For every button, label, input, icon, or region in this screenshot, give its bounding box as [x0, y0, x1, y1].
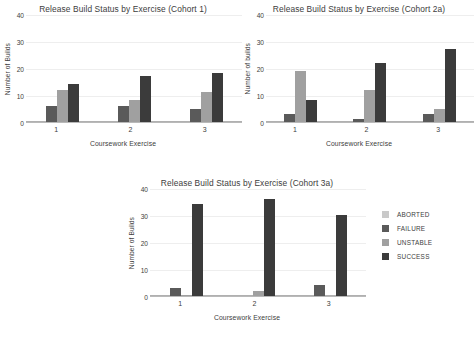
chart-legend: ABORTEDFAILUREUNSTABLESUCCESS [382, 207, 470, 263]
bar-success [306, 100, 317, 122]
bar-unstable [201, 92, 212, 122]
y-tick-label: 30 [141, 213, 148, 220]
multi-panel-bar-chart-figure: Release Build Status by Exercise (Cohort… [0, 0, 474, 345]
bar-group [170, 15, 242, 122]
y-tick-label: 0 [20, 120, 24, 127]
plot-area-wrapper: Number of builds 010203040 [244, 15, 474, 123]
x-tick-label: 1 [259, 123, 331, 133]
y-tick-label: 40 [257, 12, 264, 19]
legend-label: UNSTABLE [397, 239, 432, 246]
chart-title: Release Build Status by Exercise (Cohort… [128, 178, 366, 189]
bar-group [405, 15, 474, 122]
y-axis-ticks: 010203040 [11, 15, 26, 123]
legend-label: SUCCESS [397, 253, 430, 260]
y-tick-label: 30 [257, 39, 264, 46]
plot-area-wrapper: Number of Builds 010203040 [128, 189, 366, 297]
y-tick-label: 0 [144, 294, 148, 301]
bar-unstable [181, 295, 192, 296]
y-axis-label: Number of builds [244, 43, 251, 94]
bar-unstable [434, 109, 445, 123]
bar-failure [284, 114, 295, 122]
bar-failure [46, 106, 57, 122]
x-tick-label: 2 [93, 123, 167, 133]
legend-swatch-icon [382, 239, 389, 246]
x-axis-categories: 123 [143, 297, 366, 307]
y-tick-label: 10 [257, 93, 264, 100]
bar-unstable [129, 100, 140, 122]
x-tick-label: 3 [292, 297, 366, 307]
bar-unstable [253, 291, 264, 296]
bar-success [375, 63, 386, 122]
x-axis-label: Coursework Exercise [128, 314, 366, 321]
legend-swatch-icon [382, 253, 389, 260]
bar-failure [353, 119, 364, 122]
x-tick-label: 1 [143, 297, 217, 307]
chart-panel-cohort-2a: Release Build Status by Exercise (Cohort… [244, 4, 474, 174]
y-axis-ticks: 010203040 [251, 15, 266, 123]
x-tick-label: 3 [402, 123, 474, 133]
chart-title: Release Build Status by Exercise (Cohort… [4, 4, 242, 15]
bar-success [445, 49, 456, 122]
bar-success [140, 76, 151, 122]
plot-area [266, 15, 474, 123]
legend-item-aborted[interactable]: ABORTED [382, 207, 470, 221]
bar-unstable [57, 90, 68, 122]
x-tick-label: 2 [331, 123, 403, 133]
x-axis-categories: 123 [19, 123, 242, 133]
bar-group [26, 15, 98, 122]
legend-swatch-icon [382, 225, 389, 232]
bar-groups [26, 15, 242, 122]
y-tick-label: 20 [141, 240, 148, 247]
bar-failure [423, 114, 434, 122]
bar-unstable [295, 71, 306, 122]
bar-failure [170, 288, 181, 296]
y-axis-label: Number of Builds [128, 217, 135, 269]
legend-label: FAILURE [397, 225, 425, 232]
y-tick-label: 40 [17, 12, 24, 19]
bar-group [266, 15, 335, 122]
bar-success [212, 73, 223, 122]
bar-groups [150, 189, 366, 296]
x-axis-label: Coursework Exercise [4, 140, 242, 147]
y-tick-label: 0 [260, 120, 264, 127]
y-tick-label: 20 [257, 66, 264, 73]
y-tick-label: 30 [17, 39, 24, 46]
chart-panel-cohort-1: Release Build Status by Exercise (Cohort… [4, 4, 242, 174]
legend-item-unstable[interactable]: UNSTABLE [382, 235, 470, 249]
bar-unstable [364, 90, 375, 122]
legend-item-success[interactable]: SUCCESS [382, 249, 470, 263]
chart-panel-cohort-3a: Release Build Status by Exercise (Cohort… [128, 178, 366, 345]
bar-groups [266, 15, 474, 122]
y-tick-label: 20 [17, 66, 24, 73]
bar-success [336, 215, 347, 296]
bar-group [222, 189, 294, 296]
bar-group [294, 189, 366, 296]
y-tick-label: 40 [141, 186, 148, 193]
plot-area-wrapper: Number of Builds 010203040 [4, 15, 242, 123]
chart-title: Release Build Status by Exercise (Cohort… [244, 4, 474, 15]
x-axis-label: Coursework Exercise [244, 140, 474, 147]
bar-failure [314, 285, 325, 296]
bar-group [98, 15, 170, 122]
x-tick-label: 2 [217, 297, 291, 307]
legend-item-failure[interactable]: FAILURE [382, 221, 470, 235]
bar-success [264, 199, 275, 296]
bar-failure [190, 109, 201, 123]
y-axis-ticks: 010203040 [135, 189, 150, 297]
y-axis-label: Number of Builds [4, 43, 11, 95]
x-tick-label: 1 [19, 123, 93, 133]
x-tick-label: 3 [168, 123, 242, 133]
plot-area [26, 15, 242, 123]
y-tick-label: 10 [17, 93, 24, 100]
y-tick-label: 10 [141, 267, 148, 274]
bar-failure [118, 106, 129, 122]
legend-label: ABORTED [397, 211, 430, 218]
bar-group [150, 189, 222, 296]
x-axis-categories: 123 [259, 123, 474, 133]
bar-group [335, 15, 404, 122]
bar-success [192, 204, 203, 296]
bar-success [68, 84, 79, 122]
legend-swatch-icon [382, 211, 389, 218]
plot-area [150, 189, 366, 297]
